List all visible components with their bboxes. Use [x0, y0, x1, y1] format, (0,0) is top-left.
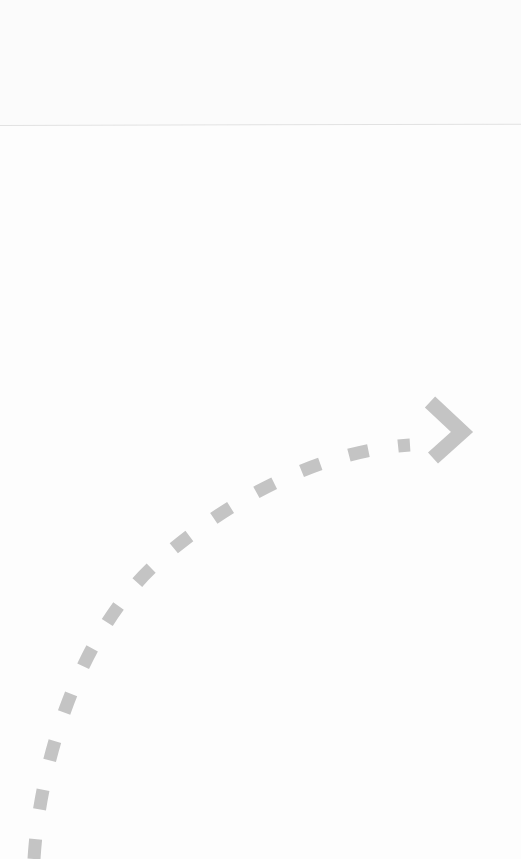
arrow-head-icon — [430, 402, 462, 458]
dashed-curved-arrow-icon — [0, 0, 521, 859]
arrow-dashed-body — [34, 445, 410, 859]
